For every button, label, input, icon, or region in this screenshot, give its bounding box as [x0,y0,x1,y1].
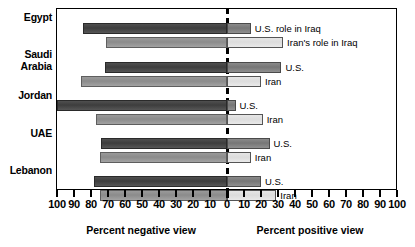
tick-label-10: 0 [224,198,230,211]
series-annotation-egypt-iran: Iran's role in Iraq [287,37,357,48]
bar-positive-lebanon-us [227,176,261,187]
tick--10 [209,190,210,197]
bar-positive-uae-us [227,138,270,149]
tick-label-2: 80 [85,198,97,211]
diverging-bar-chart: EgyptSaudi ArabiaJordanUAELebanon U.S. r… [0,0,415,247]
tick-label-7: 30 [170,198,182,211]
tick--90 [73,190,74,197]
bar-negative-jordan-iran [96,114,227,125]
bar-negative-saudi-arabia-us [105,62,227,73]
category-axis-labels: EgyptSaudi ArabiaJordanUAELebanon [0,0,56,190]
tick-label-12: 20 [255,198,267,211]
tick--80 [90,190,91,197]
tick-10 [243,190,244,197]
category-label-uae: UAE [30,128,52,140]
bar-negative-egypt-iran [106,37,227,48]
plot-area: U.S. role in IraqIran's role in IraqU.S.… [57,9,397,189]
tick-label-15: 50 [306,198,318,211]
tick--30 [175,190,176,197]
bar-negative-lebanon-us [94,176,227,187]
bar-negative-uae-us [101,138,227,149]
tick-label-19: 90 [374,198,386,211]
tick--60 [124,190,125,197]
tick-50 [311,190,312,197]
category-label-saudi-arabia: Saudi Arabia [21,49,52,72]
bar-positive-jordan-iran [227,114,263,125]
tick-80 [362,190,363,197]
tick-label-18: 80 [357,198,369,211]
series-annotation-uae-us: U.S. [274,138,292,149]
x-axis-ticks [57,190,397,197]
bar-positive-egypt-us [227,23,251,34]
tick-label-13: 30 [272,198,284,211]
series-annotation-lebanon-us: U.S. [265,176,283,187]
bar-positive-saudi-arabia-iran [227,76,261,87]
tick-90 [379,190,380,197]
series-annotation-jordan-iran: Iran [267,114,283,125]
series-annotation-egypt-us: U.S. role in Iraq [255,23,321,34]
series-annotation-jordan-us: U.S. [240,100,258,111]
tick-label-1: 90 [68,198,80,211]
category-label-egypt: Egypt [24,12,52,24]
tick-0 [226,190,228,198]
tick-label-9: 10 [204,198,216,211]
tick-label-6: 40 [153,198,165,211]
tick-label-5: 50 [136,198,148,211]
tick-30 [277,190,278,197]
tick-label-16: 60 [323,198,335,211]
series-annotation-uae-iran: Iran [255,152,271,163]
series-annotation-saudi-arabia-iran: Iran [265,76,281,87]
bar-negative-uae-iran [100,152,228,163]
tick--70 [107,190,108,197]
tick--20 [192,190,193,197]
tick-70 [345,190,346,197]
tick-label-14: 40 [289,198,301,211]
tick-label-17: 70 [340,198,352,211]
bar-positive-uae-iran [227,152,251,163]
tick-40 [294,190,295,197]
x-axis-label-right: Percent positive view [257,224,364,237]
bar-positive-saudi-arabia-us [227,62,281,73]
bar-negative-jordan-us [57,100,227,111]
bar-positive-egypt-iran [227,37,283,48]
series-annotation-saudi-arabia-us: U.S. [285,62,303,73]
tick--50 [141,190,142,197]
tick-label-0: 100 [48,198,65,211]
tick-60 [328,190,329,197]
tick-label-8: 20 [187,198,199,211]
x-axis-tick-labels: 1009080706050403020100102030405060708090… [0,198,415,212]
bar-positive-jordan-us [227,100,236,111]
category-label-jordan: Jordan [18,90,52,102]
tick-label-4: 60 [119,198,131,211]
bar-negative-saudi-arabia-iran [81,76,227,87]
tick-label-20: 100 [388,198,405,211]
tick-100 [396,190,397,197]
category-label-lebanon: Lebanon [10,165,52,177]
x-axis-label-left: Percent negative view [86,224,196,237]
bar-negative-egypt-us [83,23,228,34]
tick-20 [260,190,261,197]
tick-label-3: 70 [102,198,114,211]
tick-label-11: 10 [238,198,250,211]
tick--100 [56,190,57,197]
tick--40 [158,190,159,197]
